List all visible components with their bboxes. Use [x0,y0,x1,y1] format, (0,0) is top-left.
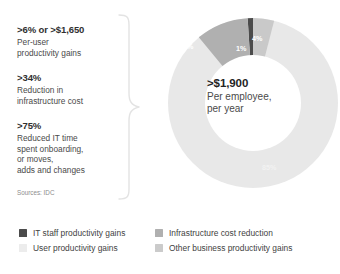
slice-label-user-productivity: 85% [262,163,276,172]
legend-label: Infrastructure cost reduction [169,228,273,238]
legend-item-infrastructure[interactable]: Infrastructure cost reduction [155,228,327,238]
stat-headline: >6% or >$1,650 [17,24,127,36]
stat-block-per-user: >6% or >$1,650 Per-user productivity gai… [17,24,127,58]
stat-description-line: Per-user [17,37,127,48]
legend-row: IT staff productivity gains Infrastructu… [19,228,329,238]
legend-swatch-icon [19,229,27,237]
legend-item-it-staff[interactable]: IT staff productivity gains [19,228,155,238]
donut-center-text: >$1,900 Per employee, per year [207,76,303,115]
stat-description-line: productivity gains [17,48,127,59]
stat-description: Reduction in infrastructure cost [17,85,127,106]
stat-description-line: Reduced IT time [17,133,127,144]
slice-label-it-staff: 1% [236,44,246,53]
legend-label: Other business productivity gains [169,243,292,253]
chart-legend: IT staff productivity gains Infrastructu… [19,228,329,258]
legend-label: User productivity gains [33,243,118,253]
donut-chart: 4% 1% 10% 85% >$1,900 Per employee, per … [166,16,340,190]
legend-label: IT staff productivity gains [33,228,125,238]
infographic-root: >6% or >$1,650 Per-user productivity gai… [0,0,340,274]
legend-swatch-icon [155,244,163,252]
curly-brace [118,14,144,200]
stat-description: Per-user productivity gains [17,37,127,58]
center-subtitle-line: Per employee, [207,91,303,103]
center-amount: >$1,900 [207,76,303,90]
stat-headline: >75% [17,120,127,132]
slice-label-other-business: 4% [252,34,262,43]
stat-description-line: or moves, [17,154,127,165]
stat-description-line: Reduction in [17,85,127,96]
legend-swatch-icon [155,229,163,237]
stat-description: Reduced IT time spent onboarding, or mov… [17,133,127,175]
stat-block-infrastructure: >34% Reduction in infrastructure cost [17,72,127,106]
center-subtitle: Per employee, per year [207,91,303,115]
center-subtitle-line: per year [207,103,303,115]
stat-block-it-time: >75% Reduced IT time spent onboarding, o… [17,120,127,175]
sources-note: Sources: IDC [17,189,127,197]
stat-description-line: spent onboarding, [17,144,127,155]
legend-item-other-business[interactable]: Other business productivity gains [155,243,327,253]
legend-item-user-productivity[interactable]: User productivity gains [19,243,155,253]
legend-row: User productivity gains Other business p… [19,243,329,253]
statistics-column: >6% or >$1,650 Per-user productivity gai… [17,24,127,197]
stat-headline: >34% [17,72,127,84]
stat-description-line: adds and changes [17,165,127,176]
legend-swatch-icon [19,244,27,252]
stat-description-line: infrastructure cost [17,96,127,107]
slice-label-infrastructure: 10% [179,42,193,51]
